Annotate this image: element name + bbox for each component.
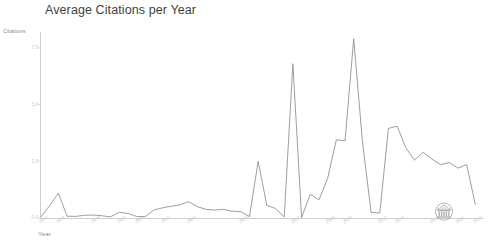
- chart-container: Average Citations per Year Citations Yea…: [0, 0, 490, 244]
- institution-seal-watermark-icon: [431, 198, 457, 224]
- data-series-line: [41, 39, 475, 218]
- plot-area: [0, 0, 490, 244]
